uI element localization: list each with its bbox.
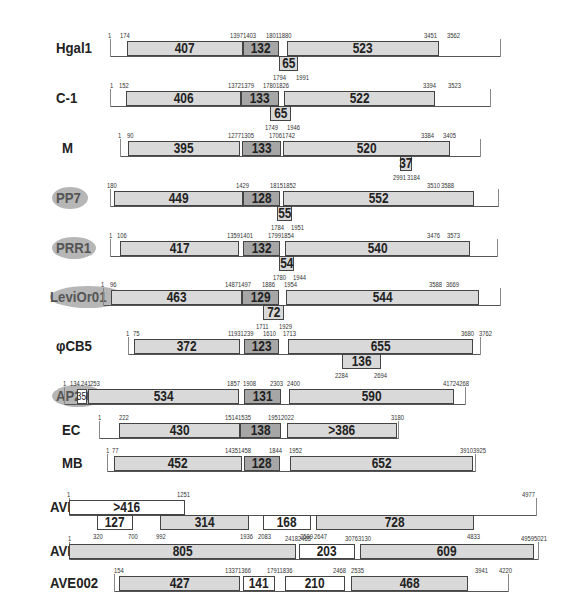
orf-length-label: 452 bbox=[168, 455, 188, 471]
genome-label: PP7 bbox=[56, 189, 81, 206]
orf-length-label: 128 bbox=[252, 455, 272, 471]
orf-box: 463 bbox=[111, 290, 242, 305]
orf-length-label: 65 bbox=[274, 105, 287, 121]
genome-end-tick bbox=[480, 139, 481, 157]
coordinate-top: 24182465 bbox=[285, 535, 311, 542]
orf-box: 133 bbox=[242, 141, 281, 156]
lower-orf-box: 168 bbox=[263, 515, 311, 530]
orf-length-label: 37 bbox=[399, 155, 412, 171]
coordinate-top: 13721379 bbox=[228, 82, 254, 89]
coordinate-top: 30763130 bbox=[345, 535, 371, 542]
orf-box: 123 bbox=[244, 339, 279, 354]
coordinate-top: 174 bbox=[120, 32, 130, 39]
lower-orf-box: 136 bbox=[342, 354, 381, 369]
coordinate-top: 1 bbox=[118, 132, 121, 139]
orf-length-label: 463 bbox=[167, 289, 187, 305]
orf-length-label: 54 bbox=[280, 255, 293, 271]
orf-length-label: 123 bbox=[252, 338, 272, 354]
coordinate-top: 17991854 bbox=[268, 232, 294, 239]
orf-box: 132 bbox=[243, 41, 279, 56]
orf-length-label: 590 bbox=[362, 388, 382, 404]
coordinate-top: 1857 bbox=[227, 380, 240, 387]
orf-length-label: 210 bbox=[305, 575, 325, 591]
orf-box: 372 bbox=[134, 339, 240, 354]
orf-length-label: 609 bbox=[437, 543, 457, 559]
coordinate-top: 39103925 bbox=[460, 447, 486, 454]
orf-box: 540 bbox=[285, 241, 470, 256]
coordinate-top: 253 bbox=[90, 380, 100, 387]
genome-start-tick bbox=[110, 89, 111, 107]
coordinate-top: 1 bbox=[126, 330, 129, 337]
orf-box: 609 bbox=[360, 544, 534, 559]
orf-length-label: 395 bbox=[174, 140, 194, 156]
orf-length-label: 520 bbox=[357, 140, 377, 156]
orf-box: 395 bbox=[128, 141, 240, 156]
orf-box: 520 bbox=[283, 141, 450, 156]
orf-box: 138 bbox=[240, 423, 281, 438]
coordinate-top: 3384 bbox=[421, 132, 434, 139]
coordinate-top: 15141535 bbox=[225, 414, 251, 421]
coordinate-bottom: 2991 bbox=[393, 174, 406, 181]
lower-orf-box: 127 bbox=[97, 515, 133, 530]
orf-length-label: 128 bbox=[252, 190, 272, 206]
coordinate-top: 49595021 bbox=[521, 535, 547, 542]
orf-box: 131 bbox=[244, 389, 281, 404]
orf-length-label: 136 bbox=[352, 353, 372, 369]
coordinate-top: 1 bbox=[98, 414, 101, 421]
genome-end-tick bbox=[398, 421, 399, 439]
genome-start-tick bbox=[103, 288, 104, 306]
coordinate-top: 1954 bbox=[284, 281, 297, 288]
orf-length-label: 406 bbox=[174, 90, 194, 106]
genome-end-tick bbox=[536, 498, 537, 516]
orf-box: 523 bbox=[287, 41, 439, 56]
orf-box: 655 bbox=[288, 339, 473, 354]
genome-start-tick bbox=[64, 387, 65, 405]
orf-length-label: 522 bbox=[350, 90, 370, 106]
orf-length-label: 132 bbox=[251, 40, 271, 56]
orf-length-label: 728 bbox=[385, 514, 405, 530]
genome-baseline bbox=[107, 471, 475, 472]
orf-box: 406 bbox=[126, 91, 241, 106]
genome-end-tick bbox=[480, 337, 481, 355]
orf-length-label: 138 bbox=[251, 422, 271, 438]
genome-start-tick bbox=[99, 421, 100, 439]
genome-start-tick bbox=[110, 189, 111, 207]
orf-length-label: 449 bbox=[169, 190, 189, 206]
orf-length-label: 141 bbox=[249, 575, 269, 591]
genome-label: LeviOr01 bbox=[50, 288, 107, 305]
orf-length-label: 55 bbox=[278, 205, 291, 221]
coordinate-top: 75 bbox=[133, 330, 140, 337]
coordinate-top: 4977 bbox=[522, 491, 535, 498]
coordinate-top: 180 bbox=[107, 182, 117, 189]
coordinate-bottom: 2284 bbox=[335, 372, 348, 379]
genome-end-tick bbox=[498, 189, 499, 207]
coordinate-top: 106 bbox=[117, 232, 127, 239]
genome-label: PRR1 bbox=[56, 239, 91, 256]
orf-box: 141 bbox=[243, 576, 275, 591]
coordinate-bottom: 2083 bbox=[258, 533, 271, 540]
coordinate-top: 18011880 bbox=[266, 32, 292, 39]
genome-end-tick bbox=[508, 574, 509, 592]
orf-length-label: 133 bbox=[252, 140, 272, 156]
coordinate-bottom: 1749 bbox=[265, 124, 278, 131]
orf-length-label: 427 bbox=[170, 575, 190, 591]
coordinate-top: 1429 bbox=[236, 182, 249, 189]
coordinate-bottom: 1929 bbox=[279, 323, 292, 330]
coordinate-top: 4268 bbox=[456, 380, 469, 387]
coordinate-bottom: 2647 bbox=[314, 533, 327, 540]
coordinate-top: 152 bbox=[119, 82, 129, 89]
orf-length-label: 523 bbox=[353, 40, 373, 56]
lower-orf-box: 37 bbox=[400, 156, 412, 171]
orf-length-label: 540 bbox=[368, 240, 388, 256]
coordinate-top: 1 bbox=[63, 380, 66, 387]
coordinate-top: 17911836 bbox=[267, 567, 293, 574]
coordinate-top: 13371366 bbox=[225, 567, 251, 574]
orf-length-label: 552 bbox=[369, 190, 389, 206]
genome-label: EC bbox=[62, 421, 80, 438]
coordinate-top: 1 bbox=[68, 535, 71, 542]
genome-end-tick bbox=[500, 288, 501, 306]
orf-box: 129 bbox=[242, 290, 279, 305]
coordinate-top: 3588 bbox=[429, 281, 442, 288]
coordinate-bottom: 1944 bbox=[293, 274, 306, 281]
coordinate-top: 3405 bbox=[443, 132, 456, 139]
